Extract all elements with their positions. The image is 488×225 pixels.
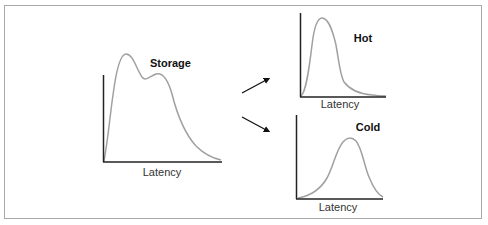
arrow-to-cold <box>242 117 269 132</box>
hot-x-label: Latency <box>321 98 360 110</box>
diagram-canvas: Storage Latency Hot Latency Cold Latency <box>0 0 488 225</box>
storage-distribution-curve <box>104 54 221 161</box>
storage-chart: Storage Latency <box>103 54 222 178</box>
cold-chart: Cold Latency <box>296 115 383 213</box>
cold-title: Cold <box>356 121 380 133</box>
storage-x-label: Latency <box>143 166 182 178</box>
storage-title: Storage <box>150 57 191 69</box>
hot-chart: Hot Latency <box>300 13 386 110</box>
arrow-to-hot <box>242 79 269 94</box>
hot-distribution-curve <box>301 18 386 96</box>
cold-x-label: Latency <box>319 201 358 213</box>
hot-title: Hot <box>354 32 373 44</box>
cold-distribution-curve <box>298 138 383 198</box>
